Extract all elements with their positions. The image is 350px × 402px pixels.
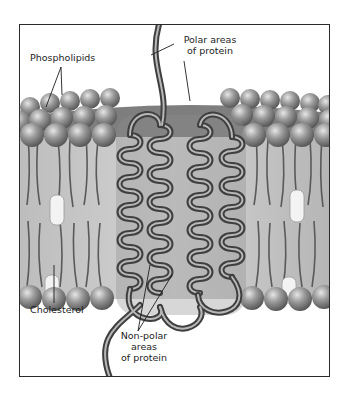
label-polar-line1: Polar areas [175,34,245,45]
label-nonpolar-areas: Non-polar areas of protein [112,330,176,363]
label-phospholipids: Phospholipids [30,52,95,63]
label-nonpolar-line1: Non-polar [112,330,176,341]
diagram-frame: Phospholipids Polar areas of protein Cho… [19,24,330,377]
label-cholesterol: Cholesterol [30,304,84,315]
transmembrane-protein [105,25,246,377]
membrane-illustration [20,25,330,377]
label-polar-areas: Polar areas of protein [175,34,245,56]
label-polar-line2: of protein [175,45,245,56]
label-nonpolar-line2: areas [112,341,176,352]
label-nonpolar-line3: of protein [112,352,176,363]
